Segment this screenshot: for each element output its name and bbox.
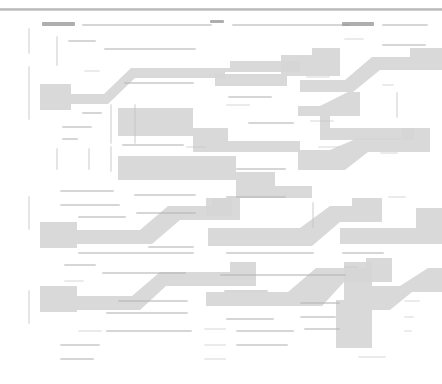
text-fragment <box>148 246 194 248</box>
text-fragment <box>228 96 272 98</box>
text-fragment <box>42 22 75 26</box>
text-fragment <box>382 24 428 26</box>
margin-change-bar <box>312 202 314 228</box>
margin-change-bar <box>56 148 58 170</box>
text-fragment <box>82 112 102 114</box>
text-fragment <box>344 38 364 40</box>
text-fragment <box>306 76 330 78</box>
text-fragment <box>300 316 336 318</box>
text-fragment <box>64 264 96 266</box>
text-fragment <box>236 330 294 332</box>
text-fragment <box>64 280 84 282</box>
text-fragment <box>204 328 226 330</box>
text-fragment <box>60 190 114 192</box>
text-fragment <box>60 358 94 360</box>
text-fragment <box>224 290 268 292</box>
text-fragment <box>404 300 420 302</box>
text-fragment <box>204 344 226 346</box>
text-fragment <box>124 82 194 84</box>
text-fragment <box>60 204 120 206</box>
margin-change-bar <box>28 290 30 324</box>
margin-change-bar <box>110 104 112 144</box>
text-fragment <box>62 138 78 140</box>
text-fragment <box>388 196 406 198</box>
text-fragment <box>342 22 374 26</box>
text-fragment <box>236 168 286 170</box>
text-fragment <box>404 330 412 332</box>
text-fragment <box>344 266 358 268</box>
margin-change-bar <box>134 104 136 144</box>
text-fragment <box>186 146 206 148</box>
text-fragment <box>106 312 188 314</box>
text-layer <box>0 0 442 384</box>
text-fragment <box>232 24 350 26</box>
margin-change-bar <box>28 196 30 230</box>
text-fragment <box>300 302 340 304</box>
margin-change-bar <box>396 92 398 118</box>
text-fragment <box>78 216 126 218</box>
text-fragment <box>380 152 398 154</box>
text-fragment <box>226 196 286 198</box>
text-fragment <box>68 40 96 42</box>
text-fragment <box>122 144 184 146</box>
text-fragment <box>60 344 100 346</box>
text-fragment <box>118 300 188 302</box>
margin-change-bar <box>28 66 30 120</box>
text-fragment <box>318 146 340 148</box>
text-fragment <box>226 318 274 320</box>
text-fragment <box>134 194 196 196</box>
text-fragment <box>84 70 100 72</box>
margin-change-bar <box>88 148 90 170</box>
text-fragment <box>220 274 346 276</box>
text-fragment <box>136 212 196 214</box>
text-fragment <box>226 104 250 106</box>
text-fragment <box>226 252 314 254</box>
text-fragment <box>204 358 226 360</box>
text-fragment <box>382 44 426 46</box>
text-fragment <box>104 48 196 50</box>
margin-change-bar <box>28 28 30 54</box>
document-page: Zoomed-out document overview Heavily dow… <box>0 0 442 384</box>
text-fragment <box>404 316 414 318</box>
text-fragment <box>62 126 92 128</box>
text-fragment <box>236 344 288 346</box>
text-fragment <box>342 252 384 254</box>
text-fragment <box>210 20 224 23</box>
text-fragment <box>310 120 334 122</box>
margin-change-bar <box>56 36 58 66</box>
text-fragment <box>358 356 386 358</box>
text-fragment <box>78 252 194 254</box>
text-fragment <box>304 328 340 330</box>
text-fragment <box>82 24 212 26</box>
text-fragment <box>382 84 394 86</box>
margin-change-bar <box>110 146 112 172</box>
text-fragment <box>78 330 102 332</box>
text-fragment <box>248 122 294 124</box>
text-fragment <box>106 330 192 332</box>
text-fragment <box>102 272 186 274</box>
